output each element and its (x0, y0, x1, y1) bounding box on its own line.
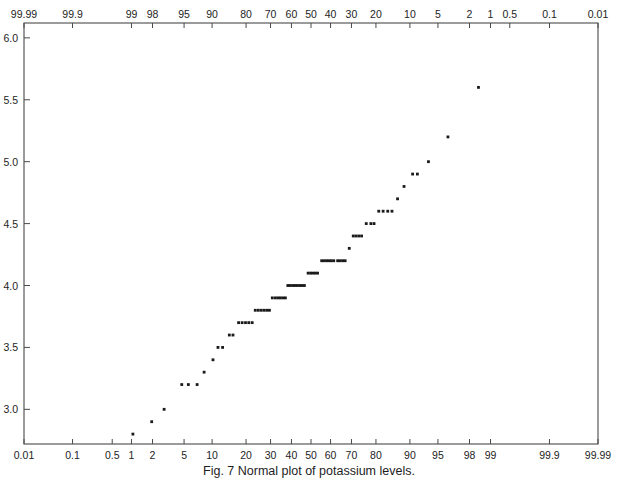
svg-text:50: 50 (305, 449, 317, 461)
svg-text:10: 10 (206, 449, 218, 461)
data-point (286, 284, 289, 287)
data-point (332, 259, 335, 262)
data-point (382, 210, 385, 213)
data-point (427, 160, 430, 163)
svg-text:99.99: 99.99 (585, 449, 611, 461)
data-point (251, 321, 254, 324)
data-point (268, 309, 271, 312)
svg-text:0.1: 0.1 (65, 449, 80, 461)
svg-text:5.0: 5.0 (3, 156, 18, 168)
data-point (411, 173, 414, 176)
data-point (282, 296, 285, 299)
svg-text:2: 2 (467, 8, 473, 20)
data-point (180, 383, 183, 386)
svg-text:0.1: 0.1 (542, 8, 557, 20)
bottom-axis-labels: 0.010.10.512510203040506070809095989999.… (14, 449, 612, 461)
data-point (244, 321, 247, 324)
top-axis-ticks (24, 23, 598, 28)
data-point (344, 259, 347, 262)
data-point (307, 272, 310, 275)
data-point (369, 222, 372, 225)
data-point (365, 222, 368, 225)
data-point (357, 235, 360, 238)
data-points (131, 86, 479, 436)
svg-text:10: 10 (404, 8, 416, 20)
svg-text:99.9: 99.9 (62, 8, 83, 20)
svg-text:70: 70 (265, 8, 277, 20)
svg-text:80: 80 (370, 449, 382, 461)
data-point (477, 86, 480, 89)
data-point (196, 383, 199, 386)
data-point (336, 259, 339, 262)
data-point (212, 358, 215, 361)
svg-text:3.0: 3.0 (3, 403, 18, 415)
svg-text:99: 99 (485, 449, 497, 461)
svg-text:60: 60 (286, 8, 298, 20)
data-point (271, 296, 274, 299)
data-point (247, 321, 250, 324)
svg-text:0.01: 0.01 (14, 449, 35, 461)
svg-text:60: 60 (325, 449, 337, 461)
data-point (228, 334, 231, 337)
data-point (341, 259, 344, 262)
plot-frame (24, 23, 598, 444)
data-point (352, 235, 355, 238)
data-point (320, 259, 323, 262)
svg-text:6.0: 6.0 (3, 32, 18, 44)
data-point (163, 408, 166, 411)
svg-text:4.5: 4.5 (3, 218, 18, 230)
svg-text:50: 50 (305, 8, 317, 20)
data-point (386, 210, 389, 213)
data-point (373, 222, 376, 225)
data-point (416, 173, 419, 176)
svg-text:5.5: 5.5 (3, 94, 18, 106)
svg-text:3.5: 3.5 (3, 341, 18, 353)
data-point (232, 334, 235, 337)
data-point (187, 383, 190, 386)
data-point (355, 235, 358, 238)
data-point (263, 309, 266, 312)
top-axis-labels: 99.9999.99998959080706050403020105210.50… (11, 8, 609, 20)
data-point (339, 259, 342, 262)
data-point (377, 210, 380, 213)
data-point (221, 346, 224, 349)
data-point (328, 259, 331, 262)
data-point (330, 259, 333, 262)
svg-text:0.01: 0.01 (588, 8, 609, 20)
svg-text:2: 2 (150, 449, 156, 461)
bottom-axis-ticks (24, 439, 598, 444)
data-point (217, 346, 220, 349)
svg-text:5: 5 (181, 449, 187, 461)
data-point (391, 210, 394, 213)
svg-text:80: 80 (240, 8, 252, 20)
svg-text:1: 1 (488, 8, 494, 20)
svg-text:0.5: 0.5 (502, 8, 517, 20)
svg-text:4.0: 4.0 (3, 280, 18, 292)
svg-text:99.99: 99.99 (11, 8, 37, 20)
data-point (257, 309, 260, 312)
svg-text:99: 99 (126, 8, 138, 20)
data-point (360, 235, 363, 238)
svg-text:20: 20 (240, 449, 252, 461)
data-point (284, 296, 287, 299)
svg-text:90: 90 (404, 449, 416, 461)
data-point (241, 321, 244, 324)
data-point (277, 296, 280, 299)
svg-text:1: 1 (129, 449, 135, 461)
figure-normal-plot: 99.9999.99998959080706050403020105210.50… (0, 0, 618, 489)
svg-text:70: 70 (346, 449, 358, 461)
data-point (260, 309, 263, 312)
data-point (131, 433, 134, 436)
data-point (254, 309, 257, 312)
data-point (316, 272, 319, 275)
svg-text:30: 30 (346, 8, 358, 20)
svg-text:5: 5 (435, 8, 441, 20)
data-point (150, 420, 153, 423)
svg-text:40: 40 (286, 449, 298, 461)
svg-text:98: 98 (147, 8, 159, 20)
data-point (265, 309, 268, 312)
data-point (289, 284, 292, 287)
svg-text:95: 95 (432, 449, 444, 461)
data-point (403, 185, 406, 188)
data-point (303, 284, 306, 287)
